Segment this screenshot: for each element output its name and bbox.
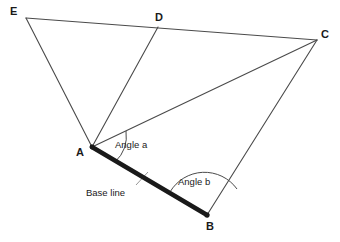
geometry-diagram: E D C A B Angle a Angle b Base line (0, 0, 340, 242)
angle-a-label: Angle a (115, 140, 147, 150)
base-line-label: Base line (86, 188, 125, 198)
vertex-label-d: D (155, 12, 163, 23)
diagram-canvas (0, 0, 340, 242)
vertex-dot-a (90, 145, 95, 150)
vertex-label-a: A (76, 147, 84, 158)
angle-b-label: Angle b (178, 177, 210, 187)
vertex-dot-b (204, 212, 209, 217)
edge-e-to-c (26, 18, 317, 40)
edge-e-to-a (26, 18, 92, 147)
vertex-label-c: C (321, 29, 329, 40)
vertex-label-b: B (206, 221, 214, 232)
edge-d-to-a (92, 27, 158, 147)
vertex-label-e: E (10, 6, 17, 17)
